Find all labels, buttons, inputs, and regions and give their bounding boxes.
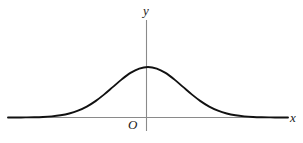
- normal-distribution-curve: [8, 67, 288, 117]
- x-axis-label: x: [290, 111, 296, 124]
- y-axis-label: y: [143, 4, 149, 17]
- plot-area: [0, 0, 303, 143]
- bell-curve-figure: y x O: [0, 0, 303, 143]
- origin-label: O: [128, 118, 137, 131]
